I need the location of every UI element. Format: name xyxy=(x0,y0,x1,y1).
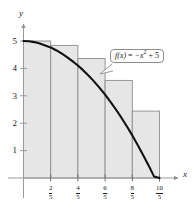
plot-canvas xyxy=(0,0,194,208)
fraction-denominator: 5 xyxy=(103,194,107,201)
fraction-denominator: 5 xyxy=(49,194,53,201)
x-tick-label: 8 5 xyxy=(121,185,143,202)
fraction-numerator: 4 xyxy=(76,185,80,192)
y-tick-label: 2 xyxy=(5,119,17,128)
fraction: 2 5 xyxy=(49,185,53,202)
fraction: 10 5 xyxy=(156,185,163,202)
expression-tail: + 5 xyxy=(147,51,160,60)
fraction-denominator: 5 xyxy=(156,194,163,201)
y-tick-label: 1 xyxy=(5,146,17,155)
expression-base: −x xyxy=(135,51,144,60)
fraction-denominator: 5 xyxy=(131,194,135,201)
fraction-numerator: 8 xyxy=(131,185,135,192)
riemann-rectangle xyxy=(51,45,78,178)
x-tick-label: 10 5 xyxy=(149,185,171,202)
function-name: f(x) xyxy=(115,51,126,60)
riemann-rectangle xyxy=(24,41,51,178)
riemann-sum-figure: y x 1 2 3 4 5 2 5 4 5 6 5 8 5 xyxy=(0,0,194,208)
x-tick-label: 2 5 xyxy=(40,185,62,202)
riemann-rectangle xyxy=(78,59,105,179)
equals-sign: = xyxy=(126,51,135,60)
y-tick-label: 5 xyxy=(5,37,17,46)
fraction: 8 5 xyxy=(131,185,135,202)
y-tick-label: 4 xyxy=(5,64,17,73)
fraction-numerator: 10 xyxy=(156,185,163,192)
fraction: 4 5 xyxy=(76,185,80,202)
fraction-numerator: 6 xyxy=(103,185,107,192)
fraction-numerator: 2 xyxy=(49,185,53,192)
y-tick-label: 3 xyxy=(5,92,17,101)
x-tick-label: 6 5 xyxy=(94,185,116,202)
x-axis-label: x xyxy=(183,170,187,179)
function-annotation-callout: f(x) = −x2 + 5 xyxy=(110,49,164,63)
fraction: 6 5 xyxy=(103,185,107,202)
fraction-denominator: 5 xyxy=(76,194,80,201)
x-tick-label: 4 5 xyxy=(67,185,89,202)
y-axis-label: y xyxy=(19,9,23,18)
